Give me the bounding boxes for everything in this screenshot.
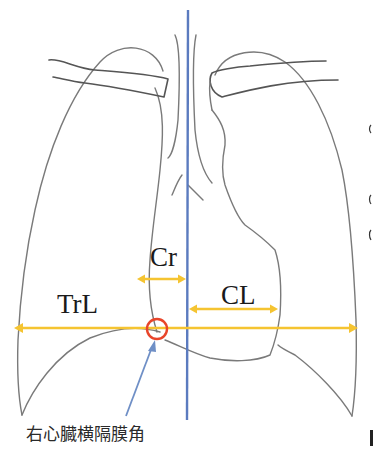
cardiophrenic-angle-label: 右心臓横隔膜角	[26, 424, 145, 444]
trl-label: TrL	[57, 289, 98, 319]
edge-artifact	[370, 125, 372, 133]
cl-label: CL	[221, 280, 256, 310]
pointer-arrow	[126, 340, 156, 416]
edge-artifact	[370, 230, 372, 240]
trachea	[168, 35, 212, 200]
trl-arrow	[14, 323, 358, 333]
edge-artifact	[370, 195, 372, 204]
cr-arrow	[137, 275, 186, 284]
cr-label: Cr	[150, 242, 177, 272]
chest-diagram: Cr CL TrL 右心臓横隔膜角	[0, 0, 373, 451]
right-lung-outline	[18, 48, 163, 415]
heart-outline	[165, 82, 281, 361]
midline	[187, 10, 188, 420]
left-lung-outline	[215, 52, 356, 416]
